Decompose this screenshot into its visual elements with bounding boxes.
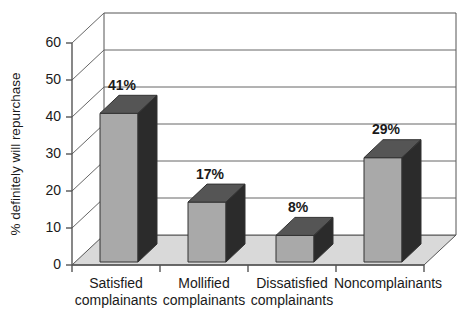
x-label-satisfied-line1: Satisfied	[89, 275, 143, 291]
x-label-noncomplainants-line1: Noncomplainants	[334, 275, 442, 291]
y-tick-label-20: 20	[45, 182, 61, 198]
x-category-labels: Satisfied complainants Mollified complai…	[75, 275, 442, 308]
bar-side-face	[402, 140, 421, 262]
x-label-dissatisfied-line1: Dissatisfied	[256, 275, 328, 291]
bar-noncomplainants[interactable]	[364, 140, 421, 262]
bar-satisfied-complainants[interactable]	[100, 95, 157, 262]
y-tick-label-30: 30	[45, 145, 61, 161]
x-label-mollified-line1: Mollified	[178, 275, 229, 291]
y-tick-label-50: 50	[45, 71, 61, 87]
x-label-satisfied-line2: complainants	[75, 292, 158, 308]
y-tick-label-60: 60	[45, 34, 61, 50]
bar-front-face	[364, 158, 402, 262]
y-axis	[66, 43, 72, 265]
data-label-mollified: 17%	[196, 166, 225, 182]
y-tick-labels: 0 10 20 30 40 50 60	[45, 34, 61, 272]
bar-front-face	[276, 235, 314, 262]
x-label-mollified-line2: complainants	[163, 292, 246, 308]
bar-chart-3d: 0 10 20 30 40 50 60 % definitely will re…	[0, 0, 469, 317]
x-label-dissatisfied-line2: complainants	[251, 292, 334, 308]
x-axis	[72, 265, 424, 272]
y-axis-title: % definitely will repurchase	[8, 73, 23, 236]
chart-container: 0 10 20 30 40 50 60 % definitely will re…	[0, 0, 469, 317]
data-label-satisfied: 41%	[108, 77, 137, 93]
bar-front-face	[188, 202, 226, 262]
y-tick-label-40: 40	[45, 108, 61, 124]
bar-side-face	[138, 95, 157, 262]
y-axis-title-group: % definitely will repurchase	[8, 73, 23, 236]
y-tick-label-10: 10	[45, 219, 61, 235]
data-label-noncomplainants: 29%	[372, 121, 401, 137]
y-tick-label-0: 0	[53, 256, 61, 272]
bar-front-face	[100, 113, 138, 262]
bar-mollified-complainants[interactable]	[188, 184, 245, 262]
data-label-dissatisfied: 8%	[288, 199, 309, 215]
